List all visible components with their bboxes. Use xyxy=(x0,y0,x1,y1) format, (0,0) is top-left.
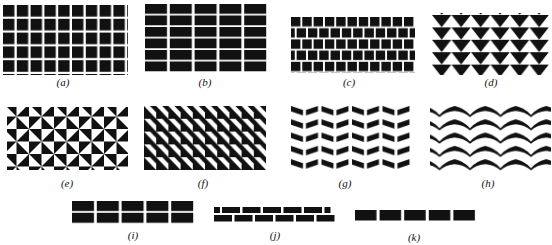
panel-g-chevron-pattern xyxy=(290,105,411,171)
panel-f-half-square-triangles xyxy=(144,106,266,170)
panel-h-arch-pattern xyxy=(430,105,551,171)
panel-a-label: (a) xyxy=(57,77,70,88)
panel-f-label: (f) xyxy=(198,178,208,189)
panel-k-label: (k) xyxy=(408,232,420,243)
panel-g-label: (g) xyxy=(339,178,352,189)
panel-c-offset-squares xyxy=(291,17,415,73)
panel-k-single-row-rectangles xyxy=(355,210,477,222)
panel-b-label: (b) xyxy=(199,77,212,88)
panel-j-offset-bricks xyxy=(214,207,336,222)
panel-c-label: (c) xyxy=(343,77,355,88)
panel-d-label: (d) xyxy=(485,77,498,88)
panel-e-label: (e) xyxy=(61,178,73,189)
panel-d-triangle-tessellation xyxy=(432,13,549,75)
panel-i-label: (i) xyxy=(128,230,138,241)
panel-i-two-row-rectangles xyxy=(72,201,196,224)
panel-a-square-grid xyxy=(3,5,128,75)
panel-e-pinwheel-pattern xyxy=(7,107,128,170)
panel-b-rectangle-grid xyxy=(145,4,269,73)
panel-j-label: (j) xyxy=(270,230,280,241)
panel-h-label: (h) xyxy=(482,178,495,189)
